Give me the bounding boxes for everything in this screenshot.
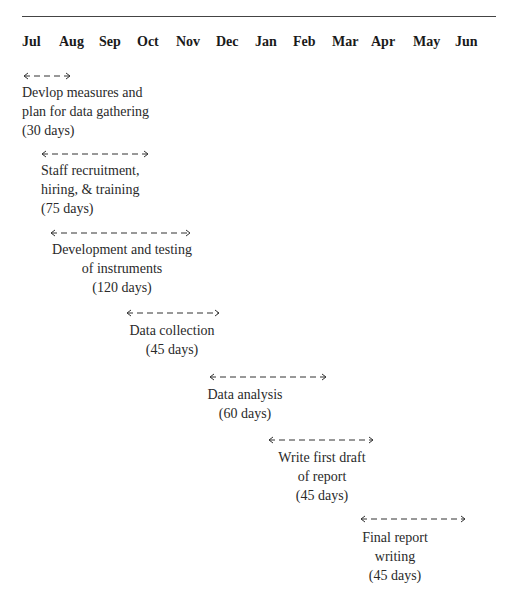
duration-arrow-icon	[49, 227, 192, 239]
month-label: Jan	[255, 34, 277, 50]
month-axis: Jul Aug Sep Oct Nov Dec Jan Feb Mar Apr …	[0, 34, 514, 54]
duration-arrow-icon	[267, 434, 375, 446]
month-label: Jun	[455, 34, 478, 50]
task-line: (45 days)	[270, 486, 374, 505]
task-line: of report	[270, 467, 374, 486]
task-line: plan for data gathering	[22, 102, 149, 121]
month-label: Aug	[59, 34, 84, 50]
task-line: (75 days)	[41, 199, 140, 218]
task-line: (120 days)	[50, 278, 194, 297]
task-line: Write first draft	[270, 448, 374, 467]
month-label: Jul	[22, 34, 41, 50]
task-label-staff: Staff recruitment, hiring, & training (7…	[41, 161, 140, 218]
task-line: (30 days)	[22, 121, 149, 140]
top-rule	[22, 16, 496, 17]
task-line: Devlop measures and	[22, 83, 149, 102]
task-label-final-report: Final report writing (45 days)	[355, 528, 435, 585]
month-label: May	[413, 34, 440, 50]
task-line: of instruments	[50, 259, 194, 278]
task-line: (45 days)	[122, 340, 222, 359]
duration-arrow-icon	[125, 307, 221, 319]
month-label: Feb	[293, 34, 316, 50]
task-line: (60 days)	[200, 404, 290, 423]
task-line: Development and testing	[50, 240, 194, 259]
month-label: Apr	[371, 34, 395, 50]
task-line: (45 days)	[355, 566, 435, 585]
task-label-measures: Devlop measures and plan for data gather…	[22, 83, 149, 140]
month-label: Sep	[99, 34, 121, 50]
task-label-analysis: Data analysis (60 days)	[200, 385, 290, 423]
duration-arrow-icon	[359, 513, 467, 525]
month-label: Mar	[332, 34, 358, 50]
duration-arrow-icon	[208, 371, 328, 383]
task-line: Staff recruitment,	[41, 161, 140, 180]
month-label: Nov	[176, 34, 200, 50]
duration-arrow-icon	[40, 148, 150, 160]
task-line: Data analysis	[200, 385, 290, 404]
task-label-instruments: Development and testing of instruments (…	[50, 240, 194, 297]
duration-arrow-icon	[22, 70, 72, 82]
month-label: Dec	[216, 34, 239, 50]
task-label-collection: Data collection (45 days)	[122, 321, 222, 359]
month-label: Oct	[137, 34, 159, 50]
task-line: hiring, & training	[41, 180, 140, 199]
task-line: writing	[355, 547, 435, 566]
task-line: Data collection	[122, 321, 222, 340]
task-line: Final report	[355, 528, 435, 547]
task-label-first-draft: Write first draft of report (45 days)	[270, 448, 374, 505]
